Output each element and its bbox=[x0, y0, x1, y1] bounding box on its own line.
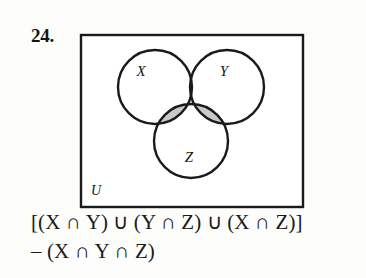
circle-label-x: X bbox=[135, 63, 146, 79]
set-expression-line-1: [(X ∩ Y) ∪ (Y ∩ Z) ∪ (X ∩ Z)] bbox=[31, 208, 361, 236]
venn-diagram: X Y Z U bbox=[78, 32, 306, 210]
exercise-number: 24. bbox=[31, 26, 54, 45]
universal-set-box bbox=[81, 35, 303, 207]
set-expression: [(X ∩ Y) ∪ (Y ∩ Z) ∪ (X ∩ Z)] – (X ∩ Y ∩… bbox=[31, 208, 361, 266]
set-expression-line-2: – (X ∩ Y ∩ Z) bbox=[31, 237, 361, 265]
page-root: 24. bbox=[0, 0, 366, 278]
universal-set-label: U bbox=[91, 183, 102, 198]
circle-label-z: Z bbox=[185, 149, 194, 165]
